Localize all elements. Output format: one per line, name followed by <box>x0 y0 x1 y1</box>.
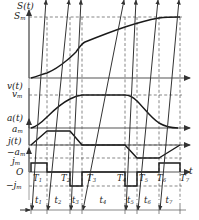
phase-mark-3: T3 <box>87 174 96 183</box>
jerk-min-label: −jm <box>6 181 22 191</box>
jerk-signal-label: j(t) <box>8 137 21 146</box>
velocity-max-label: vm <box>12 90 22 100</box>
phase-mark-2: T2 <box>61 174 70 183</box>
origin-label: O <box>16 168 23 177</box>
phase-mark-1: T1 <box>33 174 42 183</box>
motion-profile-figure: S(t) Sm v(t) vm a(t) am j(t) −am jm O −j… <box>0 0 199 220</box>
acceleration-panel <box>29 119 190 158</box>
profile-plot-svg <box>0 0 199 220</box>
phase-mark-4: T4 <box>117 174 126 183</box>
interval-label-4: t4 <box>100 196 107 205</box>
phase-mark-7: T7 <box>180 174 189 183</box>
acceleration-signal-label: a(t) <box>7 114 23 123</box>
acceleration-max-label: am <box>12 125 23 135</box>
phase-mark-6: T6 <box>157 174 166 183</box>
interval-label-6: t6 <box>144 196 151 205</box>
velocity-panel <box>29 88 190 128</box>
interval-label-5: t5 <box>127 196 134 205</box>
phase-mark-5: T5 <box>139 174 148 183</box>
interval-label-2: t2 <box>55 196 62 205</box>
jerk-max-label: jm <box>12 157 20 167</box>
interval-label-3: t3 <box>72 196 79 205</box>
displacement-curve <box>31 17 180 78</box>
displacement-signal-label: S(t) <box>17 2 34 11</box>
displacement-panel <box>29 10 190 78</box>
displacement-max-label: Sm <box>14 12 25 22</box>
interval-label-7: t7 <box>166 196 173 205</box>
time-axis-label: t <box>189 167 193 176</box>
interval-label-1: t1 <box>35 196 42 205</box>
